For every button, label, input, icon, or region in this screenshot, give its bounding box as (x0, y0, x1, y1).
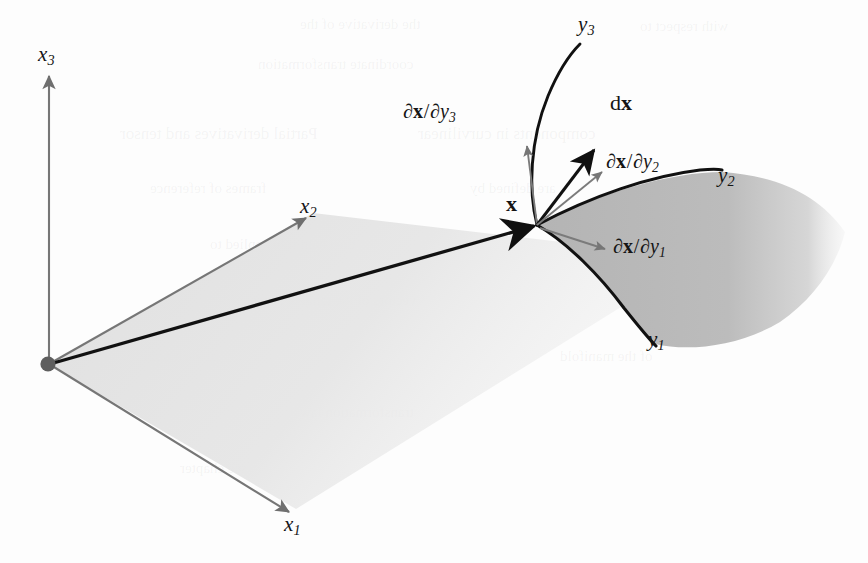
tangent-label-dx-dy3: ∂x/∂y3 (403, 101, 456, 124)
diagram-graphics (0, 0, 868, 563)
curve-label-y3: y3 (578, 14, 595, 37)
axis-label-x2: x2 (300, 196, 317, 219)
differential-label-dx: dx (610, 92, 632, 114)
tangent-label-dx-dy2: ∂x/∂y2 (606, 151, 659, 174)
tangent-label-dx-dy1: ∂x/∂y1 (613, 236, 666, 259)
point-label-x: x (506, 193, 517, 215)
origin-point (40, 356, 55, 371)
axis-label-x1: x1 (284, 514, 301, 537)
figure-canvas: the derivative of thewith respect tocoor… (0, 0, 868, 563)
axis-label-x3: x3 (38, 44, 55, 67)
curve-label-y1: y1 (648, 329, 665, 352)
curve-label-y2: y2 (718, 165, 735, 188)
